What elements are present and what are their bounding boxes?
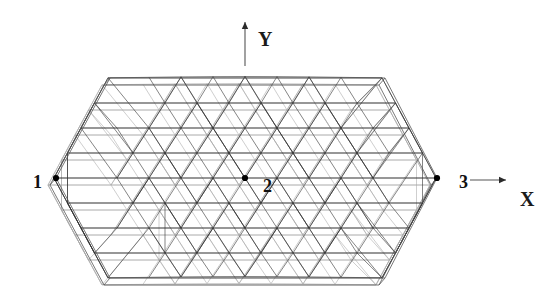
lattice-dome-figure: Y X 1 2 3 — [0, 0, 560, 297]
y-axis-label: Y — [258, 28, 273, 50]
node-marker-3 — [434, 175, 440, 181]
node-label-1: 1 — [33, 172, 42, 192]
figure-background — [0, 0, 560, 297]
node-marker-1 — [53, 175, 59, 181]
node-marker-2 — [242, 175, 248, 181]
x-axis-label: X — [520, 188, 535, 210]
node-label-2: 2 — [263, 176, 272, 196]
figure-canvas: Y X 1 2 3 — [0, 0, 560, 297]
node-label-3: 3 — [459, 172, 468, 192]
